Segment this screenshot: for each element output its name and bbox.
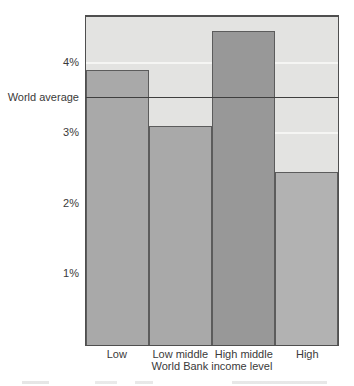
y-tick-label-2pct: 2%: [0, 196, 79, 211]
y-tick-label-3pct: 3%: [0, 125, 79, 140]
figure-canvas: 4% 3% 2% 1% World average Low Low middle…: [0, 0, 354, 386]
bar-high-middle: [212, 31, 275, 345]
bar-low-middle: [149, 126, 212, 345]
plot-area: [85, 15, 339, 346]
world-average-line: [86, 97, 338, 98]
clipped-caption-remnant: [22, 381, 327, 384]
y-tick-label-4pct: 4%: [0, 55, 79, 70]
x-axis-title: World Bank income level: [85, 360, 339, 373]
y-tick-label-1pct: 1%: [0, 266, 79, 281]
bar-high: [275, 172, 338, 345]
bar-low: [86, 70, 149, 345]
world-average-label: World average: [0, 90, 79, 105]
